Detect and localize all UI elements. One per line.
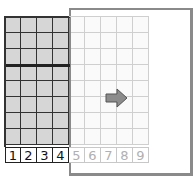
grid-cell xyxy=(21,81,37,97)
grid-cell xyxy=(5,81,21,97)
column-label: 8 xyxy=(117,147,133,163)
grid-cell xyxy=(37,81,53,97)
grid-cell xyxy=(21,97,37,113)
grid-cell xyxy=(5,97,21,113)
grid-cell xyxy=(5,17,21,33)
column-label: 1 xyxy=(5,147,21,163)
grid-cell xyxy=(53,129,69,145)
grid-cell xyxy=(53,33,69,49)
grid-cell xyxy=(21,65,37,81)
grid-cell xyxy=(37,65,53,81)
grid-cell xyxy=(5,113,21,129)
column-label: 7 xyxy=(101,147,117,163)
grid-cell xyxy=(5,65,21,81)
grid-cell xyxy=(37,113,53,129)
grid-cell xyxy=(5,129,21,145)
grid-cell xyxy=(21,129,37,145)
grid-top-border xyxy=(4,16,70,18)
column-label: 3 xyxy=(37,147,53,163)
column-label: 2 xyxy=(21,147,37,163)
grid-cell xyxy=(37,49,53,65)
grid-cell xyxy=(53,97,69,113)
thick-row-divider xyxy=(5,64,70,67)
column-label: 5 xyxy=(69,147,85,163)
grid-cell xyxy=(37,17,53,33)
grid-left-border xyxy=(4,17,6,147)
grid-cell xyxy=(37,97,53,113)
grid-cell xyxy=(37,129,53,145)
grid-cell xyxy=(5,49,21,65)
grid-cell xyxy=(53,49,69,65)
column-label: 9 xyxy=(133,147,149,163)
column-label: 6 xyxy=(85,147,101,163)
grid-cell xyxy=(53,113,69,129)
grid-top-border-light xyxy=(69,16,149,17)
grid-cell xyxy=(21,113,37,129)
grid-cell xyxy=(53,17,69,33)
grid-cell xyxy=(21,33,37,49)
grid-cell xyxy=(5,33,21,49)
grid-cell xyxy=(53,81,69,97)
grid-cell xyxy=(53,65,69,81)
column-label: 4 xyxy=(53,147,69,163)
arrow-icon xyxy=(105,88,129,112)
grid-cell xyxy=(21,49,37,65)
grid-cell xyxy=(21,17,37,33)
grid-cell xyxy=(37,33,53,49)
